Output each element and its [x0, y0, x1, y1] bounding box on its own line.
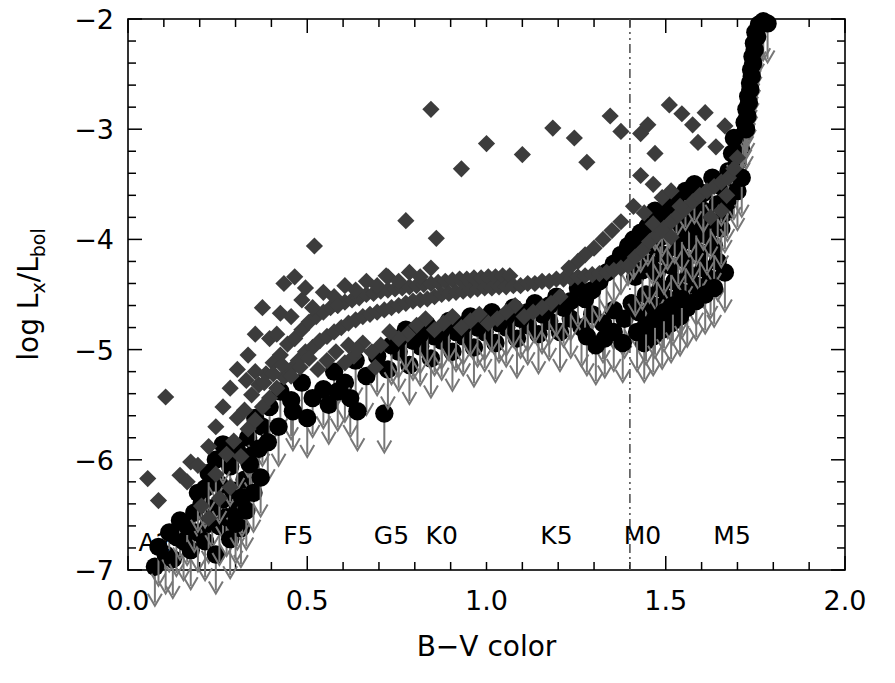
spectral-type-label: F5	[283, 521, 313, 550]
spectral-type-label: K5	[540, 521, 572, 550]
spectral-type-label: K0	[426, 521, 458, 550]
spectral-type-label: A2	[138, 528, 171, 557]
x-tick-labels: 0.00.51.01.52.0	[107, 585, 867, 616]
y-tick-label: −2	[74, 4, 114, 35]
spectral-type-label: M5	[713, 521, 750, 550]
upper-limit-markers	[146, 12, 777, 606]
spectral-type-label: M0	[624, 521, 661, 550]
scatter-plot: 0.00.51.01.52.0 −7−6−5−4−3−2 A2F5G5K0K5M…	[0, 0, 895, 683]
x-tick-label: 0.5	[286, 585, 329, 616]
x-axis-title: B−V color	[417, 630, 557, 663]
y-tick-labels: −7−6−5−4−3−2	[74, 4, 114, 586]
x-tick-label: 1.0	[465, 585, 508, 616]
y-tick-label: −7	[74, 555, 114, 586]
x-tick-label: 0.0	[107, 585, 150, 616]
y-tick-label: −4	[74, 224, 114, 255]
x-tick-label: 2.0	[824, 585, 867, 616]
y-tick-label: −3	[74, 114, 114, 145]
y-tick-label: −6	[74, 445, 114, 476]
spectral-type-label: G5	[374, 521, 409, 550]
x-tick-label: 1.5	[644, 585, 687, 616]
y-axis-title: log Lx/Lbol	[12, 228, 49, 360]
y-tick-label: −5	[74, 335, 114, 366]
figure-container: 0.00.51.01.52.0 −7−6−5−4−3−2 A2F5G5K0K5M…	[0, 0, 895, 683]
